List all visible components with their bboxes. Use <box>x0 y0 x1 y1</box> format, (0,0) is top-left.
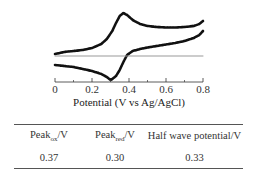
cell-half-wave: 0.33 <box>146 147 243 169</box>
anodic-scan-series <box>55 13 203 54</box>
x-tick-label: 0.4 <box>122 83 136 95</box>
x-tick-label: 0.2 <box>85 83 99 95</box>
x-axis: 00.20.40.60.8 <box>52 78 210 95</box>
cyclic-voltammogram-chart: 00.20.40.60.8 Potential (V vs Ag/AgCl) <box>0 0 259 112</box>
x-tick-label: 0.6 <box>159 83 173 95</box>
header-peak-ox: Peakox/V <box>14 125 84 147</box>
cell-peak-ox: 0.37 <box>14 147 84 169</box>
header-half-wave-potential: Half wave potential/V <box>146 125 243 147</box>
cell-peak-red: 0.30 <box>84 147 146 169</box>
x-tick-label: 0.8 <box>196 83 210 95</box>
table-header-row: Peakox/V Peakred/V Half wave potential/V <box>14 125 243 147</box>
plot-area <box>55 13 203 80</box>
x-axis-ticks: 00.20.40.60.8 <box>52 78 210 95</box>
x-axis-title: Potential (V vs Ag/AgCl) <box>73 96 185 109</box>
x-tick-label: 0 <box>52 83 58 95</box>
peak-potential-table: Peakox/V Peakred/V Half wave potential/V… <box>14 124 243 169</box>
table-row: 0.37 0.30 0.33 <box>14 147 243 169</box>
header-peak-red: Peakred/V <box>84 125 146 147</box>
